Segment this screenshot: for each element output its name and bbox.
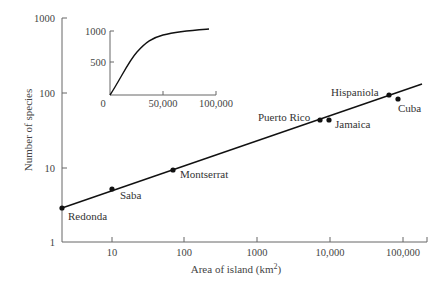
point-hispaniola <box>386 92 391 97</box>
inset-x-tick-0: 0 <box>100 98 105 109</box>
label-hispaniola: Hispaniola <box>331 86 379 98</box>
label-cuba: Cuba <box>398 102 421 114</box>
label-saba: Saba <box>120 189 142 201</box>
x-tick-labels: 10 100 1000 10,000 100,000 <box>107 247 420 258</box>
x-axis-title: Area of island (km2) <box>191 262 282 276</box>
y-axis-title: Number of species <box>22 89 34 171</box>
point-redonda <box>59 205 64 210</box>
label-jamaica: Jamaica <box>335 118 371 130</box>
x-tick-10000: 10,000 <box>316 247 345 258</box>
label-redonda: Redonda <box>68 210 107 222</box>
x-tick-10: 10 <box>107 247 118 258</box>
y-tick-1: 1 <box>50 237 55 248</box>
x-tick-1000: 1000 <box>247 247 268 258</box>
data-points <box>59 92 400 210</box>
y-tick-1000: 1000 <box>34 13 55 24</box>
point-puerto-rico <box>317 117 322 122</box>
y-tick-labels: 1000 100 10 1 <box>34 13 55 248</box>
label-montserrat: Montserrat <box>180 168 228 180</box>
x-tick-100: 100 <box>176 247 192 258</box>
point-cuba <box>395 96 400 101</box>
x-tick-100000: 100,000 <box>386 247 420 258</box>
inset-curve <box>110 29 209 95</box>
species-area-chart: 1000 100 10 1 10 100 1000 10,000 100,000… <box>0 0 448 284</box>
main-axes <box>62 18 427 242</box>
point-labels: Redonda Saba Montserrat Puerto Rico Jama… <box>68 86 421 222</box>
y-tick-10: 10 <box>45 163 56 174</box>
inset-y-tick-1000: 1000 <box>85 26 106 37</box>
inset-chart: 1000 500 0 50,000 100,000 <box>85 26 233 109</box>
label-puerto-rico: Puerto Rico <box>258 111 311 123</box>
point-montserrat <box>170 167 175 172</box>
inset-x-tick-50000: 50,000 <box>149 98 178 109</box>
inset-x-tick-100000: 100,000 <box>199 98 233 109</box>
inset-y-tick-500: 500 <box>90 57 106 68</box>
point-jamaica <box>326 117 331 122</box>
point-saba <box>109 186 114 191</box>
y-tick-100: 100 <box>39 88 55 99</box>
regression-line <box>62 84 422 208</box>
